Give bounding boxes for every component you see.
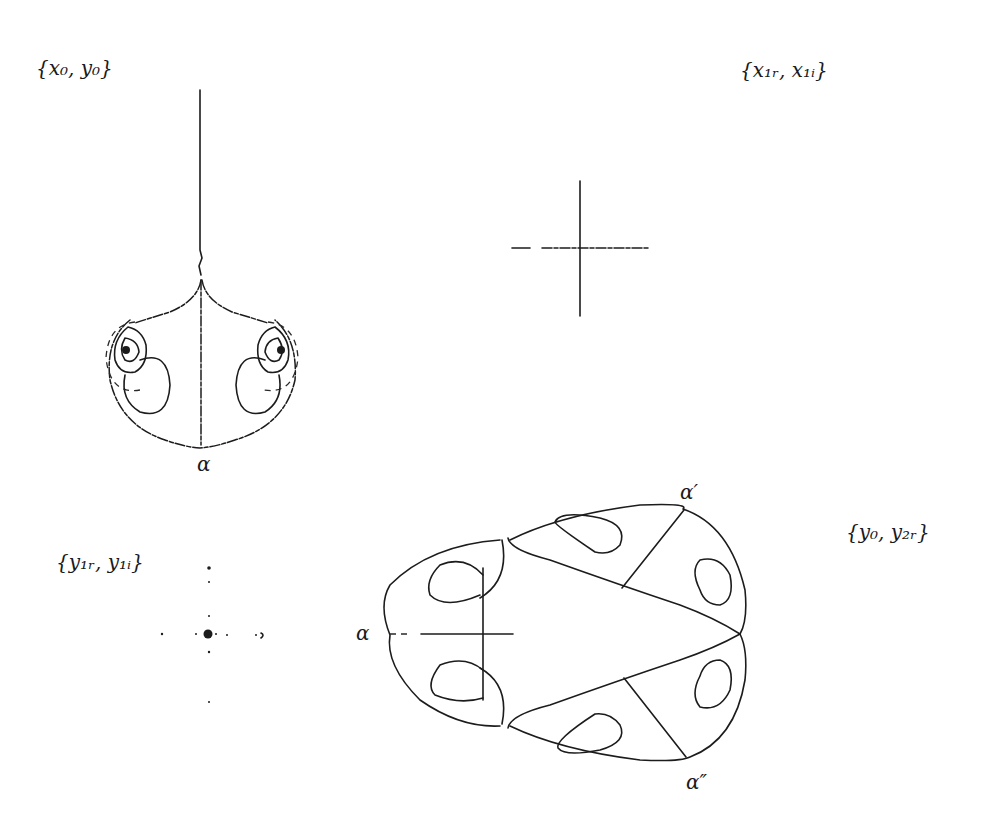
- orbit-plot-y0-y2r: [0, 0, 996, 835]
